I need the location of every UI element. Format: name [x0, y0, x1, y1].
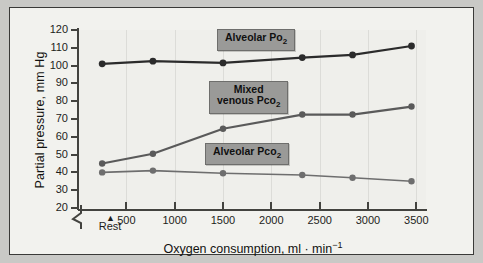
- legend-callout-alveolar-pco2: Alveolar Pco2: [205, 143, 289, 165]
- legend-callout-mixed-venous-pco2: Mixed venous Pco2: [209, 81, 288, 114]
- figure-container: 2030405060708090100110120 50010001500200…: [0, 0, 483, 263]
- legend-label-mixed-venous-line2: venous Pco: [217, 94, 276, 106]
- data-point: [299, 111, 305, 117]
- legend-sub-alveolar-pco2: 2: [277, 151, 281, 160]
- data-point: [99, 169, 105, 175]
- series-line: [102, 171, 411, 182]
- data-point: [150, 151, 156, 157]
- data-point: [299, 54, 306, 61]
- data-point: [349, 175, 355, 181]
- data-point: [220, 60, 227, 67]
- data-point: [408, 43, 415, 50]
- data-point: [99, 160, 105, 166]
- data-point: [299, 172, 305, 178]
- data-point: [99, 60, 106, 67]
- data-point: [220, 170, 226, 176]
- legend-callout-alveolar-po2: Alveolar Po2: [217, 29, 295, 51]
- chart-card: 2030405060708090100110120 50010001500200…: [9, 7, 474, 255]
- legend-sub-mixed-venous: 2: [276, 100, 280, 109]
- rest-label: Rest: [90, 220, 130, 232]
- data-point: [408, 178, 414, 184]
- y-axis-title: Partial pressure, mm Hg: [33, 20, 47, 220]
- legend-label-alveolar-po2: Alveolar Po: [225, 31, 283, 43]
- x-axis-title: Oxygen consumption, ml · min−1: [78, 240, 428, 256]
- data-point: [150, 58, 157, 65]
- data-point: [349, 111, 355, 117]
- data-point: [150, 167, 156, 173]
- x-axis-title-exponent: −1: [332, 240, 342, 250]
- legend-label-alveolar-pco2: Alveolar Pco: [213, 145, 277, 157]
- data-point: [349, 52, 356, 59]
- data-point: [408, 103, 414, 109]
- data-point: [220, 126, 226, 132]
- legend-sub-alveolar-po2: 2: [283, 37, 287, 46]
- series-3: [99, 167, 415, 184]
